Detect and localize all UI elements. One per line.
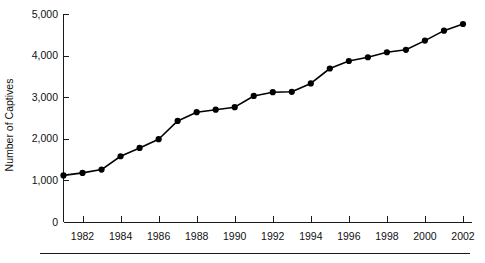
data-point-marker xyxy=(79,170,85,176)
x-tick-label: 1992 xyxy=(261,230,285,242)
y-tick-label: 2,000 xyxy=(32,132,58,144)
y-tick-label: 1,000 xyxy=(32,174,58,186)
data-point-marker xyxy=(289,89,295,95)
data-point-marker xyxy=(365,54,371,60)
y-tick-label: 3,000 xyxy=(32,91,58,103)
x-tick-label: 1988 xyxy=(185,230,209,242)
data-point-marker xyxy=(308,80,314,86)
data-point-marker xyxy=(156,136,162,142)
x-tick-label: 1990 xyxy=(223,230,247,242)
data-series-number-of-captives xyxy=(60,21,466,179)
x-tick-label: 1996 xyxy=(337,230,361,242)
data-point-marker xyxy=(384,49,390,55)
data-point-marker xyxy=(117,153,123,159)
data-point-marker xyxy=(251,93,257,99)
x-axis-ticks xyxy=(84,216,464,222)
data-point-marker xyxy=(403,47,409,53)
data-point-marker xyxy=(422,38,428,44)
x-axis-tick-labels: 1982198419861988199019921994199619982000… xyxy=(71,230,475,242)
y-tick-label: 4,000 xyxy=(32,49,58,61)
x-tick-label: 1984 xyxy=(109,230,133,242)
x-tick-label: 1994 xyxy=(299,230,323,242)
y-tick-label: 5,000 xyxy=(32,8,58,20)
x-tick-label: 2002 xyxy=(451,230,475,242)
y-tick-label: 0 xyxy=(52,216,58,228)
y-axis-title: Number of Captives xyxy=(3,79,15,172)
data-point-marker xyxy=(194,109,200,115)
x-tick-label: 1986 xyxy=(147,230,171,242)
y-axis-ticks xyxy=(64,15,70,223)
data-point-marker xyxy=(137,145,143,151)
x-tick-label: 1998 xyxy=(375,230,399,242)
data-point-marker xyxy=(270,89,276,95)
data-point-marker xyxy=(346,58,352,64)
data-point-marker xyxy=(232,104,238,110)
x-tick-label: 2000 xyxy=(413,230,437,242)
data-point-marker xyxy=(98,166,104,172)
line-chart: Number of Captives 01,0002,0003,0004,000… xyxy=(0,0,485,263)
x-axis xyxy=(64,216,473,223)
x-tick-label: 1982 xyxy=(71,230,95,242)
chart-figure: Number of Captives 01,0002,0003,0004,000… xyxy=(0,0,485,263)
y-axis-tick-labels: 01,0002,0003,0004,0005,000 xyxy=(32,8,58,228)
data-point-marker xyxy=(460,21,466,27)
series-line xyxy=(64,24,464,175)
data-point-marker xyxy=(441,28,447,34)
y-axis xyxy=(64,14,70,223)
data-point-marker xyxy=(327,65,333,71)
data-point-marker xyxy=(213,107,219,113)
data-point-marker xyxy=(60,172,66,178)
data-point-marker xyxy=(175,118,181,124)
series-markers xyxy=(60,21,466,179)
